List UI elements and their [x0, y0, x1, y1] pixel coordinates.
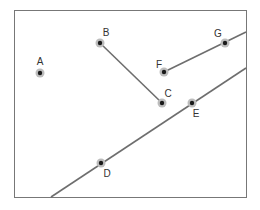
point-label: C — [164, 88, 171, 99]
point-label: D — [103, 168, 110, 179]
point-label: F — [156, 59, 162, 70]
point-label: E — [193, 108, 200, 119]
point-dot-icon — [160, 101, 164, 105]
point-label: G — [214, 28, 222, 39]
diagram-frame — [15, 11, 247, 198]
point-label: B — [103, 27, 110, 38]
point-dot-icon — [162, 70, 166, 74]
point-label: A — [37, 56, 44, 67]
point-dot-icon — [38, 71, 42, 75]
point-dot-icon — [98, 41, 102, 45]
point-dot-icon — [190, 101, 194, 105]
geometry-diagram: ABCDEFG — [0, 0, 260, 210]
point-dot-icon — [223, 41, 227, 45]
point-dot-icon — [99, 161, 103, 165]
point-a: A — [36, 56, 45, 78]
